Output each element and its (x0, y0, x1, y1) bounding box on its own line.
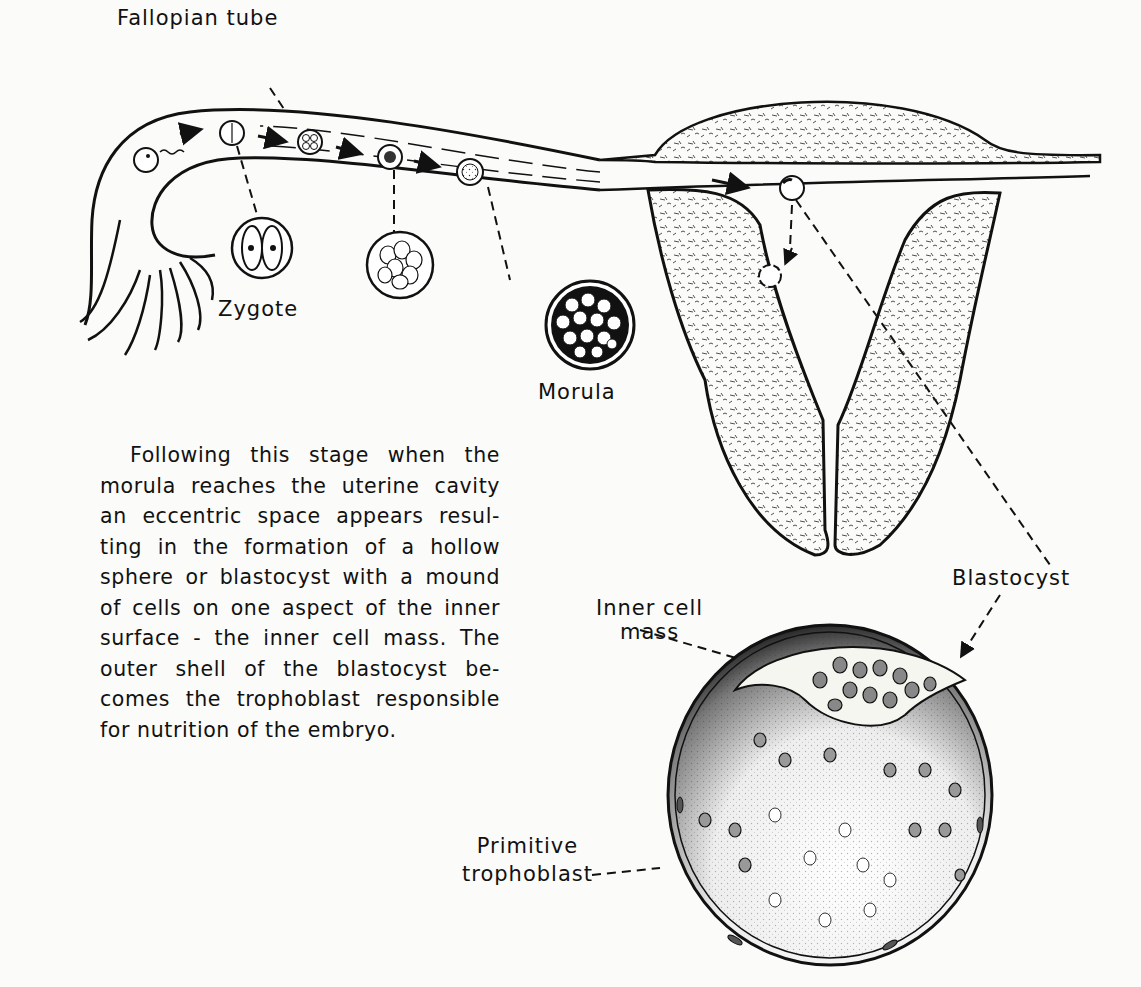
label-fallopian-tube: Fallopian tube (117, 6, 278, 30)
eight-cell-enlarged (367, 232, 433, 298)
description-paragraph: Following this stage when the morula rea… (100, 440, 500, 745)
paragraph-line: comes the trophoblast responsible (100, 684, 500, 715)
paragraph-line: Following this stage when the (100, 440, 500, 471)
paragraph-line: for nutrition of the embryo. (100, 715, 500, 746)
implantation-site (759, 265, 781, 287)
label-primitive-trophoblast-line2: trophoblast (462, 860, 593, 888)
label-primitive-trophoblast: Primitive trophoblast (462, 832, 593, 888)
arrow-to-implantation (786, 248, 792, 262)
label-inner-cell-mass: Inner cell mass (596, 596, 703, 644)
paragraph-line: morula reaches the uterine cavity (100, 471, 500, 502)
zygote-enlarged (232, 218, 292, 278)
blastocyst-in-uterus (759, 176, 804, 287)
fimbriae (80, 220, 213, 355)
arrow-to-blastocyst (962, 645, 968, 655)
ovum (134, 148, 184, 172)
paragraph-line: outer shell of the blastocyst be- (100, 654, 500, 685)
uterus (600, 102, 1100, 555)
morula-enlarged (546, 281, 634, 369)
blastocyst-enlarged (668, 625, 992, 965)
four-cell-in-tube (298, 130, 322, 154)
label-inner-cell-mass-line1: Inner cell (596, 596, 703, 620)
label-blastocyst: Blastocyst (952, 566, 1070, 590)
paragraph-line: ting in the formation of a hollow (100, 532, 500, 563)
label-morula: Morula (538, 380, 616, 404)
paragraph-line: an eccentric space appears resul- (100, 501, 500, 532)
paragraph-line: of cells on one aspect of the inner (100, 593, 500, 624)
paragraph-line: sphere or blastocyst with a mound (100, 562, 500, 593)
label-zygote: Zygote (218, 297, 298, 321)
label-primitive-trophoblast-line1: Primitive (462, 832, 593, 860)
paragraph-line: surface - the inner cell mass. The (100, 623, 500, 654)
label-inner-cell-mass-line2: mass (596, 620, 703, 644)
